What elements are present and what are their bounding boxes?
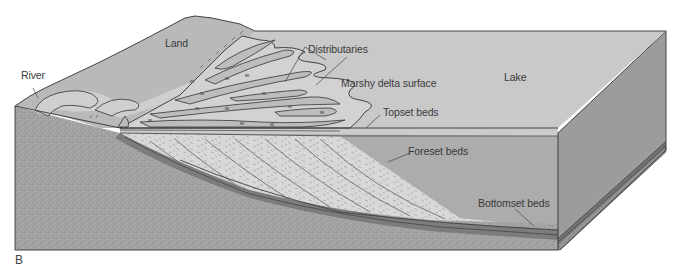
label-marshy-delta-surface: Marshy delta surface — [341, 78, 436, 89]
label-distributaries: Distributaries — [308, 44, 368, 55]
diagram-graphic — [0, 0, 679, 266]
label-land: Land — [165, 38, 188, 49]
label-topset-beds: Topset beds — [383, 107, 439, 118]
panel-label: B — [15, 253, 23, 266]
label-foreset-beds: Foreset beds — [408, 146, 468, 157]
label-lake: Lake — [504, 72, 526, 83]
delta-block-diagram: Land River Distributaries Marshy delta s… — [0, 0, 679, 266]
label-river: River — [21, 70, 45, 81]
label-bottomset-beds: Bottomset beds — [478, 198, 550, 209]
top-surface — [15, 16, 666, 128]
